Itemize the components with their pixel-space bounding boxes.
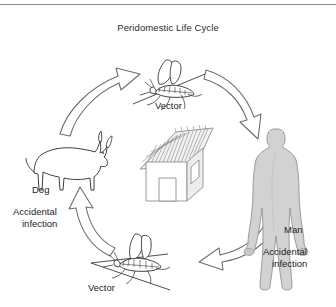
vector-top-label: Vector <box>155 100 182 112</box>
man-label: Man <box>284 224 302 236</box>
man-accidental-line2: infection <box>272 258 307 270</box>
dog-outline-icon <box>26 131 112 190</box>
arrow-dog-to-vector-top <box>60 68 140 136</box>
dog-accidental-line2: infection <box>22 218 57 230</box>
arrow-vector-bottom-to-dog <box>69 187 115 256</box>
vector-bottom-label: Vector <box>88 282 115 294</box>
man-accidental-line1: Accidental <box>263 246 307 258</box>
dog-accidental-line1: Accidental <box>13 206 57 218</box>
peridomestic-life-cycle-figure: Peridomestic Life Cycle <box>0 0 336 307</box>
dog-label: Dog <box>32 184 49 196</box>
thatched-hut-icon <box>140 125 213 201</box>
